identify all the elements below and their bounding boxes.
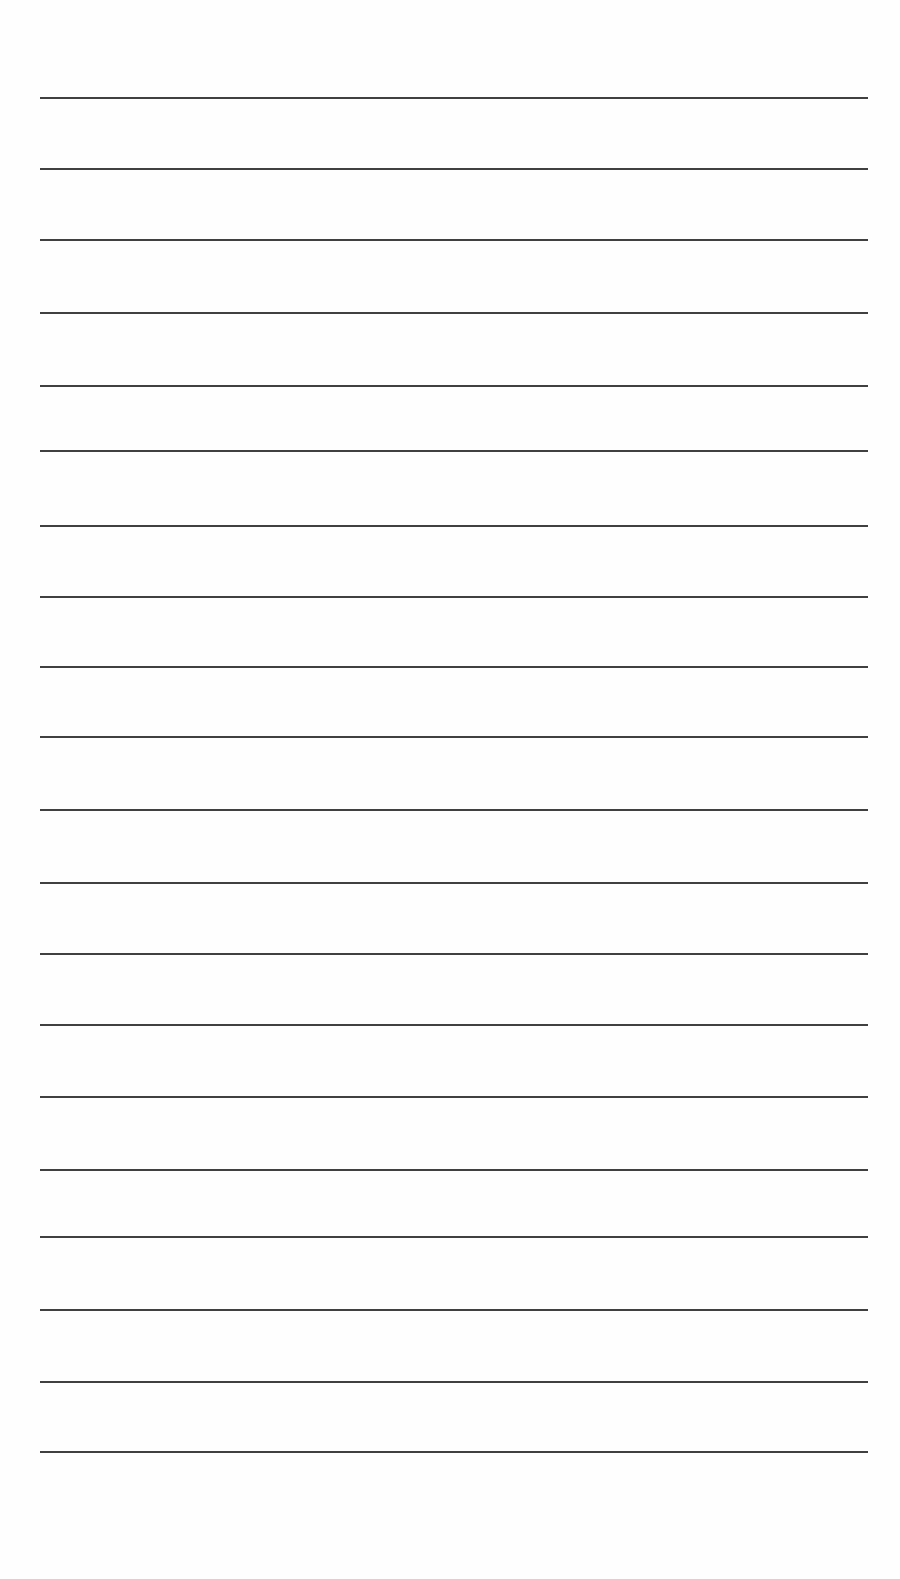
ruled-line-14	[40, 1024, 868, 1026]
ruled-line-7	[40, 525, 868, 527]
ruled-line-15	[40, 1096, 868, 1098]
ruled-line-1	[40, 97, 868, 99]
lined-paper-page	[0, 0, 900, 1579]
ruled-line-4	[40, 312, 868, 314]
ruled-line-13	[40, 953, 868, 955]
ruled-line-16	[40, 1169, 868, 1171]
ruled-line-2	[40, 168, 868, 170]
ruled-line-8	[40, 596, 868, 598]
ruled-line-5	[40, 385, 868, 387]
ruled-line-19	[40, 1381, 868, 1383]
ruled-line-18	[40, 1309, 868, 1311]
ruled-line-6	[40, 450, 868, 452]
ruled-line-12	[40, 882, 868, 884]
ruled-line-9	[40, 666, 868, 668]
ruled-line-3	[40, 239, 868, 241]
ruled-line-10	[40, 736, 868, 738]
ruled-line-20	[40, 1451, 868, 1453]
ruled-line-11	[40, 809, 868, 811]
ruled-line-17	[40, 1236, 868, 1238]
